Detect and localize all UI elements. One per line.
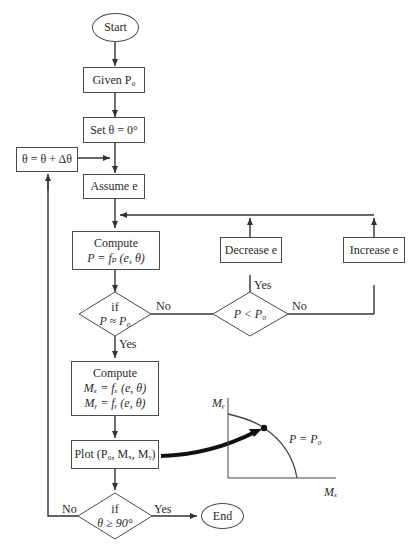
decision-p-less-cond: P < P₀ [220, 307, 280, 321]
edge-label-theta-yes: Yes [154, 502, 171, 516]
compute-p-formula: P = fₚ (e, θ) [87, 251, 145, 266]
decision-p-approx-cond: P ≈ P₀ [85, 314, 145, 328]
set-theta-label: Set θ = 0° [90, 123, 138, 138]
decrease-e-box: Decrease e [220, 237, 282, 263]
decision-p-approx-if: if [85, 300, 145, 314]
inset-y-axis-label: Mᵧ [212, 396, 225, 410]
inset-x-axis-label: Mₓ [324, 485, 337, 499]
compute-m-title: Compute [93, 366, 137, 381]
increase-e-box: Increase e [343, 237, 405, 263]
inset-point [261, 425, 267, 431]
edge-label-theta-no: No [62, 502, 77, 516]
given-p0-box: Given P₀ [83, 67, 145, 93]
given-p0-label: Given P₀ [92, 73, 135, 88]
edge-label-approx-yes: Yes [119, 337, 136, 351]
plot-box: Plot (P₀, Mₓ, Mᵧ) [71, 440, 159, 469]
compute-mx-formula: Mₓ = fₓ (e, θ) [84, 381, 146, 396]
increment-theta-label: θ = θ + Δθ [22, 152, 72, 167]
assume-e-label: Assume e [91, 179, 138, 194]
increment-theta-box: θ = θ + Δθ [16, 147, 78, 172]
end-label: End [213, 509, 232, 524]
increase-e-label: Increase e [350, 243, 398, 258]
plot-label: Plot (P₀, Mₓ, Mᵧ) [74, 447, 155, 462]
decision-theta-text: if θ ≥ 90° [85, 502, 145, 530]
end-terminal: End [201, 503, 244, 529]
edge-label-less-no: No [292, 299, 307, 313]
assume-e-box: Assume e [83, 174, 145, 199]
inset-curve-label: P = P₀ [289, 432, 322, 446]
start-label: Start [104, 20, 127, 35]
set-theta-box: Set θ = 0° [83, 117, 145, 143]
compute-p-box: Compute P = fₚ (e, θ) [72, 231, 160, 270]
edge-label-approx-no: No [156, 299, 171, 313]
compute-p-title: Compute [94, 236, 138, 251]
decision-theta-cond: θ ≥ 90° [85, 516, 145, 530]
connector-lines [0, 0, 416, 549]
decrease-e-label: Decrease e [225, 243, 277, 258]
decision-p-approx-text: if P ≈ P₀ [85, 300, 145, 328]
decision-p-less-text: P < P₀ [220, 307, 280, 321]
compute-m-box: Compute Mₓ = fₓ (e, θ) Mᵧ = fᵧ (e, θ) [71, 361, 159, 416]
start-terminal: Start [92, 13, 139, 42]
compute-my-formula: Mᵧ = fᵧ (e, θ) [84, 396, 145, 411]
edge-label-less-yes: Yes [254, 278, 271, 292]
decision-theta-if: if [85, 502, 145, 516]
